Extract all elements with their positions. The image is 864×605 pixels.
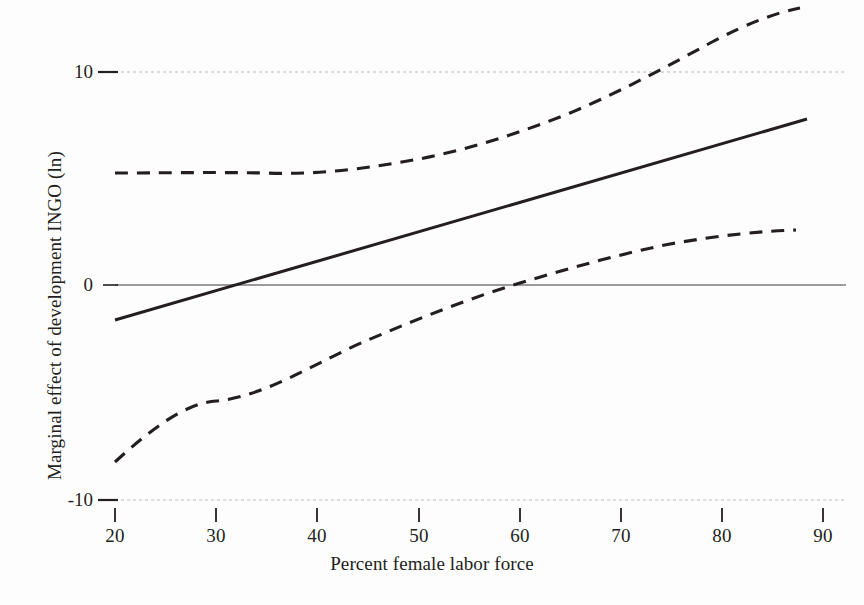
- marginal-effect-chart: 10 0 -10 20 30 40 50 60 70 80 90 Margina…: [0, 0, 864, 605]
- xtick-label-40: 40: [287, 525, 347, 547]
- xtick-label-50: 50: [389, 525, 449, 547]
- xtick-label-70: 70: [591, 525, 651, 547]
- x-axis-title: Percent female labor force: [0, 553, 864, 575]
- marginal-effect-line: [115, 119, 807, 320]
- xtick-label-20: 20: [85, 525, 145, 547]
- y-axis-title: Marginal effect of development INGO (ln): [44, 151, 66, 480]
- xtick-marks: [115, 508, 823, 522]
- ytick-label-10: 10: [38, 61, 93, 83]
- lower-confidence-bound-line: [115, 230, 796, 462]
- plot-canvas: [0, 0, 864, 605]
- xtick-label-60: 60: [490, 525, 550, 547]
- upper-confidence-bound-line: [115, 8, 800, 173]
- xtick-label-90: 90: [793, 525, 853, 547]
- xtick-label-80: 80: [692, 525, 752, 547]
- xtick-label-30: 30: [186, 525, 246, 547]
- ytick-label-minus-10: -10: [30, 489, 93, 511]
